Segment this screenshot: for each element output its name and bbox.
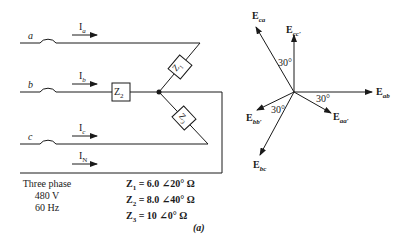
source-frequency: 60 Hz — [22, 202, 72, 214]
phasor-ebc — [260, 92, 294, 155]
angle-label-left: 30° — [271, 104, 285, 116]
fuse-c-icon — [40, 140, 56, 144]
current-label-a: Ia — [79, 21, 86, 37]
phasor-label-ecc: Ecc′ — [286, 24, 301, 40]
z2-value: Z2 = 8.0 ∠40° Ω — [126, 194, 195, 210]
line-c-label: c — [28, 131, 32, 143]
phasor-label-ebb: Ebb′ — [246, 112, 262, 128]
phasor-diagram — [256, 27, 372, 155]
neutral-node — [157, 90, 162, 95]
fuse-b-icon — [40, 88, 56, 92]
figure-caption: (a) — [193, 222, 205, 234]
source-phase: Three phase — [22, 178, 72, 190]
fuse-a-icon — [40, 39, 56, 43]
angle-label-right: 30° — [316, 93, 330, 105]
current-label-n: IN — [79, 150, 87, 166]
current-label-b: Ib — [79, 70, 86, 86]
phasor-label-eaa: Eaa′ — [333, 111, 349, 127]
impedance-values: Z1 = 6.0 ∠20° Ω Z2 = 8.0 ∠40° Ω Z3 = 10 … — [126, 178, 195, 226]
current-label-c: Ic — [79, 122, 85, 138]
source-info: Three phase 480 V 60 Hz — [22, 178, 72, 214]
z1-value: Z1 = 6.0 ∠20° Ω — [126, 178, 195, 194]
phasor-label-ebc: Ebc — [253, 159, 266, 175]
line-a-label: a — [28, 30, 33, 42]
phasor-label-eab: Eab — [376, 86, 390, 102]
phasor-label-eca: Eca — [252, 10, 265, 26]
z2-label: Z2 — [114, 86, 124, 102]
line-b-label: b — [28, 79, 33, 91]
source-voltage: 480 V — [22, 190, 72, 202]
z3-value: Z3 = 10 ∠0° Ω — [126, 210, 195, 226]
angle-label-top: 30° — [278, 57, 292, 69]
